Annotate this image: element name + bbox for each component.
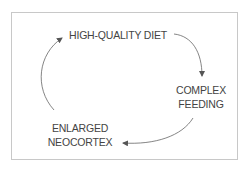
arrow-feeding-to-neocortex xyxy=(123,118,193,143)
node-label-line2: NEOCORTEX xyxy=(44,135,116,149)
node-high-quality-diet: HIGH-QUALITY DIET xyxy=(66,28,170,42)
node-complex-feeding: COMPLEX FEEDING xyxy=(170,83,232,111)
arrow-diet-to-feeding xyxy=(174,34,202,76)
node-enlarged-neocortex: ENLARGED NEOCORTEX xyxy=(44,121,116,149)
node-label-line1: ENLARGED xyxy=(44,121,116,135)
node-label: HIGH-QUALITY DIET xyxy=(69,29,167,41)
node-label-line1: COMPLEX xyxy=(170,83,232,97)
node-label-line2: FEEDING xyxy=(170,97,232,111)
arrow-neocortex-to-diet xyxy=(41,38,62,110)
